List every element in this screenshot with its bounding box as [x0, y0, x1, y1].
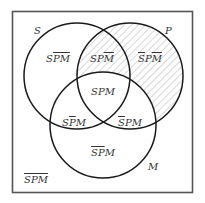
set-label-s: S — [34, 25, 41, 36]
svg-text:SPM: SPM — [24, 174, 49, 185]
region-label-m-only: SPM — [91, 147, 116, 158]
set-label-p: P — [164, 25, 172, 36]
set-label-m: M — [147, 161, 159, 172]
region-label-sp-not-m: SPM — [90, 53, 115, 64]
svg-text:SPM: SPM — [118, 117, 143, 128]
region-label-none: SPM — [24, 174, 49, 185]
region-label-sm-not-p: SPM — [62, 117, 87, 128]
svg-text:SPM: SPM — [91, 86, 116, 97]
svg-text:SPM: SPM — [62, 117, 87, 128]
svg-text:SPM: SPM — [91, 147, 116, 158]
region-label-p-only: SPM — [138, 53, 163, 64]
region-label-spm: SPM — [91, 86, 116, 97]
svg-text:SPM: SPM — [46, 53, 71, 64]
venn-diagram: S P M SPMSPMSPMSPMSPMSPMSPMSPM — [0, 0, 205, 203]
region-label-pm-not-s: SPM — [118, 117, 143, 128]
svg-text:SPM: SPM — [138, 53, 163, 64]
region-label-s-only: SPM — [46, 53, 71, 64]
svg-text:SPM: SPM — [90, 53, 115, 64]
